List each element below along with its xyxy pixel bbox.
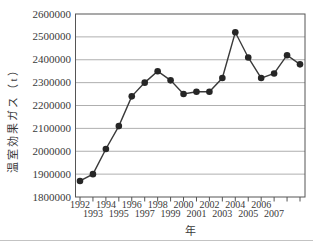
data-point	[154, 68, 161, 75]
data-point	[180, 91, 187, 98]
data-point	[232, 29, 239, 36]
chart-figure: 温室効果ガス（t） 260000025000002400000230000022…	[0, 0, 313, 245]
data-point	[167, 77, 174, 84]
y-tick-label: 2000000	[33, 145, 72, 157]
data-point	[141, 79, 148, 86]
data-point	[206, 88, 213, 95]
data-point	[90, 171, 97, 178]
x-tick-label: 1993	[83, 208, 103, 219]
x-tick-label: 1997	[135, 208, 155, 219]
data-point	[245, 54, 252, 61]
x-tick-label: 2001	[186, 208, 206, 219]
y-tick-label: 2600000	[33, 8, 72, 20]
data-point	[193, 88, 200, 95]
x-tick-label: 1999	[161, 208, 181, 219]
x-tick-label: 2005	[238, 208, 258, 219]
data-point	[284, 52, 291, 59]
y-tick-label: 2200000	[33, 99, 72, 111]
data-point	[116, 123, 123, 130]
y-tick-label: 2300000	[33, 76, 72, 88]
data-point	[271, 70, 278, 77]
x-axis-title: 年	[75, 222, 305, 238]
data-point	[128, 93, 135, 100]
data-point	[258, 75, 265, 82]
data-line	[80, 32, 300, 181]
x-tick-label: 2003	[212, 208, 232, 219]
data-point	[297, 61, 304, 68]
y-tick-label: 1900000	[33, 168, 72, 180]
plot-area: 2600000250000024000002300000220000021000…	[0, 0, 313, 245]
x-tick-label: 2007	[264, 208, 284, 219]
data-point	[219, 75, 226, 82]
data-point	[103, 146, 110, 153]
y-tick-label: 2500000	[33, 30, 72, 42]
y-tick-label: 2100000	[33, 122, 72, 134]
x-tick-label: 1995	[109, 208, 129, 219]
y-tick-label: 1800000	[33, 191, 72, 203]
y-tick-label: 2400000	[33, 53, 72, 65]
page-divider-line	[0, 240, 313, 241]
data-point	[77, 178, 84, 185]
